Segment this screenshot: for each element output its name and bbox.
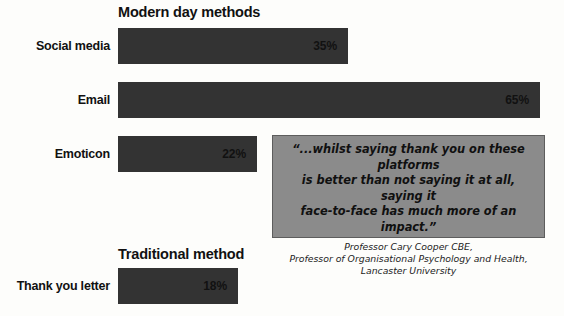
bar-fill-social-media: 35%	[118, 28, 348, 64]
quote-text: “...whilst saying thank you on these pla…	[281, 142, 536, 235]
bar-fill-thank-you-letter: 18%	[118, 268, 238, 304]
bar-track-social-media: 35%	[118, 28, 348, 64]
bar-fill-email: 65%	[118, 82, 540, 118]
quote-attribution: Professor Cary Cooper CBE, Professor of …	[281, 241, 536, 278]
quote-line-1: “...whilst saying thank you on these pla…	[281, 142, 536, 173]
section-heading-modern: Modern day methods	[118, 4, 260, 20]
bar-value-emoticon: 22%	[222, 147, 257, 161]
quote-callout: “...whilst saying thank you on these pla…	[272, 135, 545, 238]
bar-label-social-media: Social media	[0, 28, 110, 64]
bar-track-thank-you-letter: 18%	[118, 268, 238, 304]
quote-attribution-line-2: Professor of Organisational Psychology a…	[289, 253, 527, 264]
section-heading-traditional: Traditional method	[118, 246, 244, 262]
quote-line-3: face-to-face has much more of an impact.…	[281, 204, 536, 235]
bar-chart: Modern day methods Social media 35% Emai…	[0, 0, 564, 316]
bar-label-email: Email	[0, 82, 110, 118]
bar-value-social-media: 35%	[313, 39, 348, 53]
quote-line-2: is better than not saying it at all, say…	[281, 173, 536, 204]
bar-track-emoticon: 22%	[118, 136, 257, 172]
bar-track-email: 65%	[118, 82, 540, 118]
quote-attribution-line-1: Professor Cary Cooper CBE,	[344, 241, 473, 252]
bar-fill-emoticon: 22%	[118, 136, 257, 172]
bar-label-emoticon: Emoticon	[0, 136, 110, 172]
bar-value-thank-you-letter: 18%	[203, 279, 238, 293]
bar-label-thank-you-letter: Thank you letter	[0, 268, 110, 304]
bar-value-email: 65%	[505, 93, 540, 107]
quote-attribution-line-3: Lancaster University	[361, 265, 456, 276]
